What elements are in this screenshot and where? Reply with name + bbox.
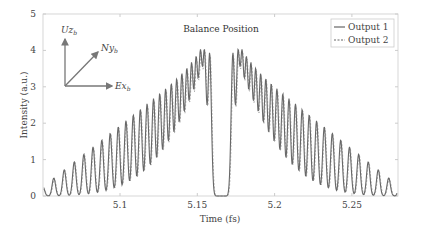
ex-axis-label: Exb	[114, 81, 131, 92]
y-tick-label: 1	[30, 155, 36, 165]
y-axis-title: Intensity (a.u.)	[19, 71, 29, 138]
series-output-1	[44, 49, 397, 196]
x-tick-label: 5.2	[267, 200, 281, 210]
legend-label-output-2: Output 2	[348, 35, 389, 45]
chart: 012345 5.15.155.25.25 Time (fs) Intensit…	[0, 0, 432, 237]
coordinate-frame-inset: Uzb Nyb Exb	[61, 25, 131, 92]
x-tick-label: 5.1	[113, 200, 127, 210]
balance-position-annotation: Balance Position	[183, 24, 259, 34]
ny-axis-arrow	[65, 52, 98, 86]
series-output-2	[44, 52, 397, 196]
x-tick-label: 5.25	[342, 200, 362, 210]
y-tick-label: 3	[30, 82, 36, 92]
ny-axis-label: Nyb	[100, 43, 118, 54]
y-tick-label: 4	[30, 45, 36, 55]
x-tick-label: 5.15	[187, 200, 207, 210]
y-tick-label: 0	[30, 191, 36, 201]
x-axis: 5.15.155.25.25	[113, 14, 362, 210]
y-tick-label: 2	[30, 118, 36, 128]
legend-label-output-1: Output 1	[348, 22, 389, 32]
x-axis-title: Time (fs)	[200, 214, 241, 224]
uz-axis-label: Uzb	[61, 25, 77, 36]
y-tick-label: 5	[30, 9, 36, 19]
legend: Output 1 Output 2	[331, 19, 394, 47]
